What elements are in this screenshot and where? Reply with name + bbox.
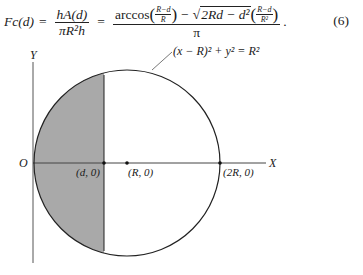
point-2r xyxy=(218,161,222,165)
x-axis-label: X xyxy=(269,156,276,171)
point-d xyxy=(102,161,106,165)
circle-segment-figure xyxy=(0,0,363,275)
point-d-label: (d, 0) xyxy=(76,166,100,178)
label-pointer xyxy=(152,52,172,70)
circle-equation-label: (x − R)² + y² = R² xyxy=(173,44,259,59)
origin-label: O xyxy=(19,156,28,171)
y-axis-label: Y xyxy=(30,48,37,63)
point-r-label: (R, 0) xyxy=(128,166,153,178)
point-r xyxy=(125,161,129,165)
point-2r-label: (2R, 0) xyxy=(223,166,254,178)
